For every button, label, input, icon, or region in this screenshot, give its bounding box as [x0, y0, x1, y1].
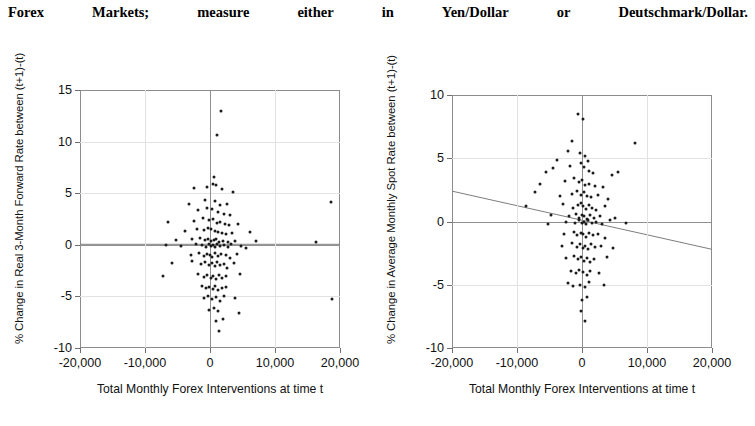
data-point — [587, 169, 590, 172]
data-point — [193, 220, 196, 223]
header-word-4: in — [382, 4, 394, 21]
data-point — [577, 181, 580, 184]
y-axis-tick-label: -5 — [433, 278, 444, 292]
data-point — [235, 253, 238, 256]
y-axis-label-left: % Change in Real 3-Month Forward Rate be… — [13, 44, 25, 344]
data-point — [214, 183, 217, 186]
header-word-0: Forex — [8, 4, 44, 21]
x-axis-tick — [647, 348, 648, 353]
data-point — [225, 202, 228, 205]
data-point — [175, 238, 178, 241]
data-point — [245, 246, 248, 249]
data-point — [588, 214, 591, 217]
x-axis-tick-label: 10,000 — [256, 356, 295, 370]
data-point — [583, 154, 586, 157]
data-point — [579, 243, 582, 246]
data-point — [212, 218, 215, 221]
data-point — [213, 252, 216, 255]
data-point — [199, 236, 202, 239]
y-axis-tick-label: 0 — [437, 215, 444, 229]
data-point — [314, 240, 317, 243]
data-point — [196, 228, 199, 231]
x-axis-tick — [145, 348, 146, 353]
data-point — [585, 195, 588, 198]
data-point — [571, 206, 574, 209]
data-point — [203, 297, 206, 300]
data-point — [225, 266, 228, 269]
gridline-vertical — [145, 90, 146, 348]
data-point — [214, 285, 217, 288]
data-point — [579, 162, 582, 165]
data-point — [577, 112, 580, 115]
x-axis-tick — [452, 348, 453, 353]
data-point — [582, 191, 585, 194]
data-point — [216, 309, 219, 312]
data-point — [206, 186, 209, 189]
data-point — [580, 310, 583, 313]
x-axis-tick — [340, 348, 341, 353]
y-axis-tick-label: -10 — [54, 341, 72, 355]
data-point — [204, 199, 207, 202]
data-point — [607, 197, 610, 200]
data-point — [164, 243, 167, 246]
x-axis-tick — [582, 348, 583, 353]
data-point — [210, 298, 213, 301]
data-point — [207, 219, 210, 222]
y-axis-tick-label: 10 — [430, 88, 444, 102]
data-point — [570, 192, 573, 195]
data-point — [238, 272, 241, 275]
data-point — [230, 242, 233, 245]
data-point — [595, 209, 598, 212]
data-point — [547, 223, 550, 226]
data-point — [236, 223, 239, 226]
x-axis-tick-label: 20,000 — [693, 356, 732, 370]
data-point — [580, 201, 583, 204]
x-axis-tick-label: 10,000 — [628, 356, 667, 370]
header-word-6: or — [557, 4, 571, 21]
y-axis-tick — [447, 222, 452, 223]
data-point — [552, 167, 555, 170]
data-point — [224, 254, 227, 257]
data-point — [202, 275, 205, 278]
x-axis-tick — [712, 348, 713, 353]
data-point — [568, 215, 571, 218]
data-point — [225, 233, 228, 236]
data-point — [566, 149, 569, 152]
data-point — [539, 182, 542, 185]
header-text: Forex Markets; measure either in Yen/Dol… — [8, 4, 748, 21]
data-point — [533, 191, 536, 194]
data-point — [563, 233, 566, 236]
data-point — [597, 233, 600, 236]
data-point — [587, 204, 590, 207]
x-axis-tick-label: -20,000 — [431, 356, 474, 370]
data-point — [584, 320, 587, 323]
data-point — [582, 259, 585, 262]
y-axis-tick-label: -5 — [61, 289, 72, 303]
data-point — [214, 277, 217, 280]
data-point — [222, 212, 225, 215]
y-axis-tick — [75, 245, 80, 246]
x-axis-tick-label: 0 — [578, 356, 585, 370]
y-axis-tick-label: -10 — [426, 341, 444, 355]
data-point — [179, 244, 182, 247]
data-point — [329, 201, 332, 204]
data-point — [590, 221, 593, 224]
data-point — [214, 296, 217, 299]
data-point — [597, 272, 600, 275]
data-point — [608, 219, 611, 222]
data-point — [192, 187, 195, 190]
scatter-plot-left: Total Monthly Forex Interventions at tim… — [80, 90, 340, 348]
data-point — [594, 220, 597, 223]
data-point — [574, 212, 577, 215]
data-point — [203, 238, 206, 241]
data-point — [582, 166, 585, 169]
data-point — [582, 118, 585, 121]
x-axis-tick-label: -20,000 — [59, 356, 102, 370]
data-point — [596, 193, 599, 196]
header-word-1: Markets; — [92, 4, 149, 21]
data-point — [573, 221, 576, 224]
y-axis-tick — [447, 158, 452, 159]
data-point — [331, 298, 334, 301]
data-point — [216, 210, 219, 213]
data-point — [602, 186, 605, 189]
